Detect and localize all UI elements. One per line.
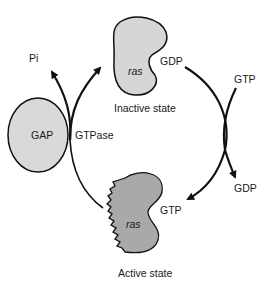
gap-label: GAP: [31, 130, 53, 141]
gtp-input-label: GTP: [234, 74, 256, 85]
gtpase-label: GTPase: [75, 130, 114, 141]
ras-inactive-shape: [114, 17, 167, 95]
gdp-output-label: GDP: [234, 183, 257, 194]
gdp-bound-label: GDP: [160, 56, 183, 67]
arrow-from-active: [70, 140, 103, 208]
arrow-to-active: [188, 150, 225, 199]
arrow-gdp-out: [225, 150, 235, 177]
inactive-state-label: Inactive state: [114, 103, 176, 114]
pi-label: Pi: [29, 53, 38, 64]
arrow-gdp-release: [185, 67, 227, 150]
ras-active-label: ras: [126, 219, 141, 230]
gtp-bound-label: GTP: [160, 205, 182, 216]
active-state-label: Active state: [118, 268, 172, 279]
ras-inactive-label: ras: [128, 66, 143, 77]
ras-active-shape: [107, 173, 162, 253]
